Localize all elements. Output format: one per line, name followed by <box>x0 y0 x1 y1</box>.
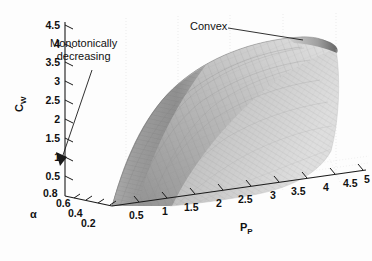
pp-tick-3: 3 <box>270 190 276 201</box>
pp-tick-2.5: 2.5 <box>238 194 253 205</box>
z-axis-title: CW <box>14 96 28 112</box>
pp-tick-3.5: 3.5 <box>291 186 306 197</box>
pp-tick-2: 2 <box>216 198 222 209</box>
x-axis-title-sub: P <box>247 227 252 236</box>
pp-tick-4: 4 <box>323 182 329 193</box>
pp-tick-1.5: 1.5 <box>184 202 199 213</box>
alpha-tick-0.2: 0.2 <box>81 218 96 229</box>
pp-tick-5: 5 <box>364 174 370 185</box>
monotonic-annotation-line1: Monotonically <box>50 37 117 50</box>
z-axis-title-sub: W <box>19 96 28 104</box>
monotonic-annotation-line2: decreasing <box>50 50 117 63</box>
pp-tick-4.5: 4.5 <box>343 178 358 189</box>
z-tick-3: 3 <box>22 76 60 87</box>
z-tick-4.5: 4.5 <box>22 20 60 31</box>
depth-axis-title: α <box>30 209 37 220</box>
monotonic-annotation: Monotonically decreasing <box>50 37 117 63</box>
pp-tick-0.5: 0.5 <box>129 210 144 221</box>
z-axis-title-text: C <box>13 104 25 112</box>
pp-tick-1: 1 <box>162 206 168 217</box>
convex-annotation: Convex <box>190 20 227 32</box>
z-tick-2: 2 <box>22 114 60 125</box>
surface-plot-figure: 4.5 4 3.5 3 2.5 2 1.5 1 0.5 CW 0.8 0.6 0… <box>0 0 372 261</box>
x-axis-title: PP <box>240 222 253 236</box>
z-tick-1: 1 <box>22 152 60 163</box>
z-tick-0.5: 0.5 <box>22 171 60 182</box>
z-tick-1.5: 1.5 <box>22 133 60 144</box>
